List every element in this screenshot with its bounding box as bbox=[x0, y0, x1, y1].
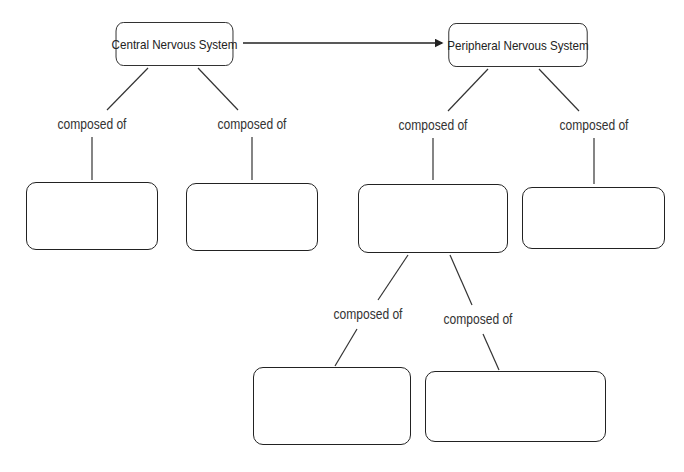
node-pns-part-2[interactable] bbox=[522, 187, 665, 249]
node-peripheral-nervous-system[interactable]: Peripheral Nervous System bbox=[448, 23, 587, 67]
node-pns-subpart-2[interactable] bbox=[425, 371, 606, 442]
edge-label-pns-1: composed of bbox=[399, 117, 468, 133]
node-cns-part-2[interactable] bbox=[186, 183, 318, 251]
edge-label-pns-sub-1: composed of bbox=[334, 306, 403, 322]
node-central-nervous-system[interactable]: Central Nervous System bbox=[116, 22, 234, 66]
edge-label-pns-sub-2: composed of bbox=[444, 311, 513, 327]
edge-label-cns-1: composed of bbox=[58, 116, 127, 132]
edge-label-pns-2: composed of bbox=[560, 117, 629, 133]
edge-label-cns-2: composed of bbox=[218, 116, 287, 132]
node-cns-part-1[interactable] bbox=[26, 182, 158, 250]
node-pns-part-1[interactable] bbox=[358, 184, 508, 253]
concept-map-canvas: Central Nervous System Peripheral Nervou… bbox=[0, 0, 684, 472]
node-pns-subpart-1[interactable] bbox=[253, 367, 411, 445]
